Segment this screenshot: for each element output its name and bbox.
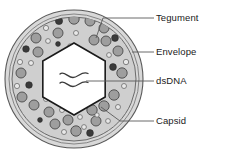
tegument-particle bbox=[78, 115, 83, 120]
tegument-particle bbox=[23, 46, 30, 53]
tegument-particle bbox=[123, 59, 128, 64]
tegument-particle bbox=[113, 46, 123, 56]
label-tegument: Tegument bbox=[156, 13, 199, 23]
tegument-particle bbox=[71, 126, 81, 136]
tegument-particle bbox=[87, 130, 94, 137]
tegument-particle bbox=[50, 119, 60, 129]
tegument-particle bbox=[112, 35, 119, 42]
tegument-particle bbox=[43, 25, 48, 30]
tegument-particle bbox=[31, 33, 41, 43]
tegument-particle bbox=[29, 61, 34, 66]
tegument-particle bbox=[74, 31, 79, 36]
tegument-particle bbox=[33, 47, 43, 57]
tegument-particle bbox=[44, 107, 54, 117]
tegument-particle bbox=[38, 118, 43, 123]
tegument-particle bbox=[107, 53, 112, 58]
tegument-particle bbox=[17, 59, 22, 64]
tegument-particle bbox=[29, 100, 39, 110]
tegument-particle bbox=[63, 115, 73, 125]
tegument-particle bbox=[26, 82, 33, 89]
tegument-particle bbox=[82, 125, 87, 130]
tegument-particle bbox=[116, 105, 121, 110]
label-envelope: Envelope bbox=[156, 47, 196, 57]
label-dsdna: dsDNA bbox=[156, 76, 187, 86]
tegument-particle bbox=[53, 28, 63, 38]
tegument-particle bbox=[91, 116, 101, 126]
tegument-particle bbox=[56, 42, 61, 47]
figure-canvas: Tegument Envelope dsDNA Capsid bbox=[0, 0, 225, 158]
tegument-particle bbox=[17, 92, 27, 102]
tegument-particle bbox=[106, 119, 111, 124]
tegument-particle bbox=[95, 113, 99, 117]
tegument-particle bbox=[46, 39, 51, 44]
tegument-particle bbox=[16, 68, 26, 78]
label-capsid: Capsid bbox=[156, 116, 186, 126]
tegument-particle bbox=[89, 35, 99, 45]
tegument-particle bbox=[110, 64, 117, 71]
tegument-particle bbox=[109, 90, 119, 100]
tegument-particle bbox=[62, 130, 67, 135]
tegument-particle bbox=[117, 68, 127, 78]
virion-diagram bbox=[0, 0, 225, 158]
tegument-particle bbox=[122, 84, 127, 89]
tegument-particle bbox=[14, 83, 19, 88]
tegument-particle bbox=[101, 36, 111, 46]
